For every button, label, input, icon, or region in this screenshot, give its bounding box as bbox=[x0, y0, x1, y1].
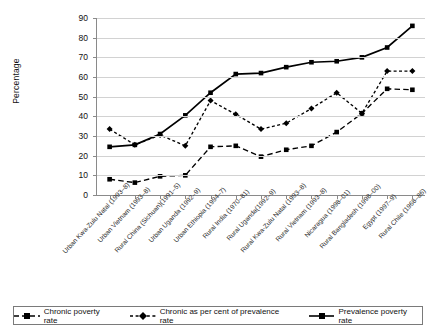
chart-legend: Chronic poverty rate Chronic as per cent… bbox=[13, 306, 423, 325]
grid-line bbox=[97, 57, 425, 58]
data-point-marker bbox=[410, 87, 415, 92]
legend-key-dashed-square-icon bbox=[14, 311, 40, 321]
y-tick-label: 50 bbox=[64, 93, 88, 101]
data-point-marker bbox=[410, 24, 415, 29]
x-axis-tick-labels: Urban Kwa-Zulu Natal (1993–8)Urban Vietn… bbox=[0, 196, 440, 296]
data-point-marker bbox=[107, 177, 112, 182]
grid-line bbox=[97, 136, 425, 137]
data-point-marker bbox=[385, 45, 390, 50]
grid-line bbox=[97, 97, 425, 98]
x-tick-label: Nicaragua (1998–01) bbox=[303, 188, 351, 239]
data-point-marker bbox=[208, 90, 213, 95]
y-axis-title: Percentage bbox=[11, 21, 21, 141]
series-lines bbox=[97, 18, 425, 195]
data-point-marker bbox=[334, 130, 339, 135]
grid-line bbox=[97, 18, 425, 19]
data-point-marker bbox=[233, 144, 238, 149]
data-point-marker bbox=[182, 143, 188, 149]
y-tick-label: 90 bbox=[64, 14, 88, 22]
y-tick-mark bbox=[93, 38, 97, 39]
y-tick-mark bbox=[93, 57, 97, 58]
legend-key-solid-square-icon bbox=[309, 311, 335, 321]
data-point-marker bbox=[308, 105, 314, 111]
chart-figure: Percentage 0102030405060708090 Urban Kwa… bbox=[0, 0, 440, 335]
data-point-marker bbox=[384, 68, 390, 74]
data-point-marker bbox=[259, 71, 264, 76]
legend-label: Prevalence poverty rate bbox=[338, 307, 422, 325]
grid-line bbox=[97, 156, 425, 157]
y-tick-mark bbox=[93, 116, 97, 117]
grid-line bbox=[97, 116, 425, 117]
data-point-marker bbox=[283, 120, 289, 126]
legend-label: Chronic poverty rate bbox=[44, 307, 115, 325]
y-axis-tick-labels: 0102030405060708090 bbox=[58, 0, 88, 200]
data-point-marker bbox=[309, 144, 314, 149]
data-point-marker bbox=[133, 143, 138, 148]
legend-item-chronic-poverty-rate: Chronic poverty rate bbox=[14, 307, 115, 325]
data-point-marker bbox=[409, 68, 415, 74]
y-tick-label: 40 bbox=[64, 112, 88, 120]
y-tick-mark bbox=[93, 97, 97, 98]
x-tick-label: Rural Uganda(1992–9) bbox=[225, 187, 277, 242]
plot-area bbox=[96, 18, 425, 196]
legend-key-dotted-diamond-icon bbox=[130, 311, 156, 321]
y-tick-label: 10 bbox=[64, 171, 88, 179]
data-point-marker bbox=[258, 126, 264, 132]
x-tick-label: Rural Chile (1968–86) bbox=[377, 188, 427, 241]
data-point-marker bbox=[284, 147, 289, 152]
data-point-marker bbox=[233, 72, 238, 77]
data-point-marker bbox=[107, 145, 112, 150]
legend-label: Chronic as per cent of prevalence rate bbox=[160, 307, 294, 325]
grid-line bbox=[97, 77, 425, 78]
grid-line bbox=[97, 38, 425, 39]
y-tick-label: 80 bbox=[64, 34, 88, 42]
data-point-marker bbox=[284, 65, 289, 70]
legend-item-chronic-as-per-cent-of-prevalence-rate: Chronic as per cent of prevalence rate bbox=[130, 307, 294, 325]
y-tick-label: 70 bbox=[64, 53, 88, 61]
y-tick-label: 30 bbox=[64, 132, 88, 140]
y-tick-mark bbox=[93, 175, 97, 176]
y-tick-mark bbox=[93, 77, 97, 78]
x-tick-label: Rural India (1970–81) bbox=[201, 188, 250, 240]
legend-item-prevalence-poverty-rate: Prevalence poverty rate bbox=[309, 307, 422, 325]
data-point-marker bbox=[309, 60, 314, 65]
data-point-marker bbox=[133, 180, 138, 185]
series-line bbox=[110, 71, 413, 146]
y-tick-mark bbox=[93, 136, 97, 137]
plot-region: Percentage 0102030405060708090 Urban Kwa… bbox=[0, 0, 440, 200]
data-point-marker bbox=[385, 87, 390, 92]
y-tick-mark bbox=[93, 156, 97, 157]
grid-line bbox=[97, 175, 425, 176]
data-point-marker bbox=[208, 98, 214, 104]
data-point-marker bbox=[334, 59, 339, 64]
y-tick-mark bbox=[93, 18, 97, 19]
y-tick-label: 60 bbox=[64, 73, 88, 81]
data-point-marker bbox=[208, 145, 213, 150]
y-tick-label: 20 bbox=[64, 152, 88, 160]
